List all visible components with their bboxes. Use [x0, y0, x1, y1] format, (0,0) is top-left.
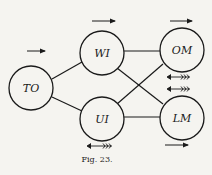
node-label-lm: LM — [172, 112, 192, 125]
figure-caption: Fig. 23. — [81, 155, 112, 164]
feathered-arrow-left-icon — [167, 87, 190, 92]
edge-to-wi — [52, 62, 82, 79]
diagram-canvas: TO WI UI OM LM Fig. 23. — [0, 0, 212, 175]
feathered-arrow-left-icon — [87, 144, 112, 149]
node-label-to: TO — [23, 82, 39, 95]
node-label-wi: WI — [94, 47, 110, 60]
node-label-ui: UI — [95, 113, 109, 126]
feathered-arrow-left-icon — [167, 75, 190, 80]
node-label-om: OM — [172, 44, 193, 57]
edge-to-ui — [52, 97, 82, 111]
